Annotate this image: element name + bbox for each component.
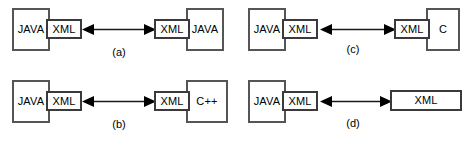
- panel-a-bidirectional-arrow: [82, 22, 156, 37]
- panel-c: JAVA XML XML C (c): [236, 0, 472, 72]
- panel-b-caption: (b): [98, 119, 140, 130]
- panel-c-left-language-box: JAVA: [248, 8, 286, 51]
- panel-d-left-language-box: JAVA: [248, 80, 286, 123]
- panel-b-right-language-box: C++: [186, 80, 228, 123]
- panel-a-left-xml-box: XML: [46, 19, 82, 39]
- panel-b-left-xml-box: XML: [46, 91, 82, 111]
- panel-a-left-language-box: JAVA: [12, 8, 50, 51]
- panel-a-caption: (a): [98, 47, 140, 58]
- figure-diagram: JAVA XML XML JAVA (a) JAVA XML XML C (c): [0, 0, 472, 145]
- panel-d-bidirectional-arrow: [320, 94, 392, 109]
- panel-d: JAVA XML XML (d): [236, 72, 472, 144]
- panel-d-right-xml-box: XML: [390, 90, 462, 111]
- panel-c-right-xml-box: XML: [394, 19, 430, 39]
- panel-b: JAVA XML XML C++ (b): [0, 72, 236, 144]
- panel-c-right-language-box: C: [426, 8, 460, 51]
- panel-b-right-xml-box: XML: [154, 91, 190, 111]
- panel-c-left-xml-box: XML: [282, 19, 318, 39]
- panel-a-right-xml-box: XML: [154, 19, 190, 39]
- panel-a: JAVA XML XML JAVA (a): [0, 0, 236, 72]
- panel-d-left-xml-box: XML: [282, 91, 318, 111]
- panel-c-bidirectional-arrow: [320, 22, 396, 37]
- panel-b-bidirectional-arrow: [82, 94, 156, 109]
- panel-b-left-language-box: JAVA: [12, 80, 50, 123]
- panel-a-right-language-box: JAVA: [186, 8, 224, 51]
- panel-d-caption: (d): [332, 118, 374, 129]
- panel-c-caption: (c): [332, 44, 374, 55]
